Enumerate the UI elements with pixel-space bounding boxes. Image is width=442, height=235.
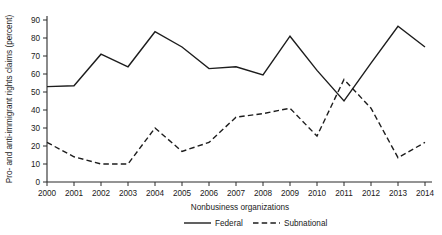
y-tick-label: 40 xyxy=(31,106,41,115)
line-chart: 0102030405060708090 Pro- and anti-immigr… xyxy=(0,0,442,235)
x-axis-title: Nonbusiness organizations xyxy=(191,203,289,212)
x-tick-label: 2001 xyxy=(65,189,84,198)
x-tick-label: 2008 xyxy=(254,189,273,198)
legend-label-federal: Federal xyxy=(215,219,243,228)
data-series-group xyxy=(47,26,425,164)
y-tick-label: 80 xyxy=(31,34,41,43)
y-tick-label: 10 xyxy=(31,160,41,169)
y-tick-label: 0 xyxy=(35,178,40,187)
x-tick-label: 2004 xyxy=(146,189,165,198)
x-tick-label: 2013 xyxy=(389,189,408,198)
y-tick-label: 60 xyxy=(31,70,41,79)
chart-legend: Federal Subnational xyxy=(184,219,327,228)
y-tick-label: 30 xyxy=(31,124,41,133)
x-tick-label: 2011 xyxy=(335,189,353,198)
series-line-federal xyxy=(47,26,425,101)
y-axis-ticks: 0102030405060708090 xyxy=(31,16,47,187)
y-tick-label: 50 xyxy=(31,88,41,97)
y-tick-label: 90 xyxy=(31,16,41,25)
x-tick-label: 2005 xyxy=(173,189,192,198)
x-tick-label: 2012 xyxy=(362,189,381,198)
x-tick-label: 2010 xyxy=(308,189,327,198)
x-tick-label: 2002 xyxy=(92,189,111,198)
legend-label-subnational: Subnational xyxy=(284,219,327,228)
x-axis-ticks: 2000200120022003200420052006200720082009… xyxy=(38,182,435,198)
series-line-subnational xyxy=(47,79,425,164)
y-tick-label: 20 xyxy=(31,142,41,151)
x-tick-label: 2014 xyxy=(416,189,435,198)
y-axis: 0102030405060708090 Pro- and anti-immigr… xyxy=(5,15,47,187)
y-axis-title: Pro- and anti-immigrant rights claims (p… xyxy=(5,15,14,184)
y-tick-label: 70 xyxy=(31,52,41,61)
x-tick-label: 2000 xyxy=(38,189,57,198)
x-tick-label: 2003 xyxy=(119,189,138,198)
x-axis: 2000200120022003200420052006200720082009… xyxy=(38,182,435,212)
x-tick-label: 2006 xyxy=(200,189,219,198)
chart-figure: 0102030405060708090 Pro- and anti-immigr… xyxy=(0,0,442,235)
x-tick-label: 2007 xyxy=(227,189,246,198)
x-tick-label: 2009 xyxy=(281,189,300,198)
